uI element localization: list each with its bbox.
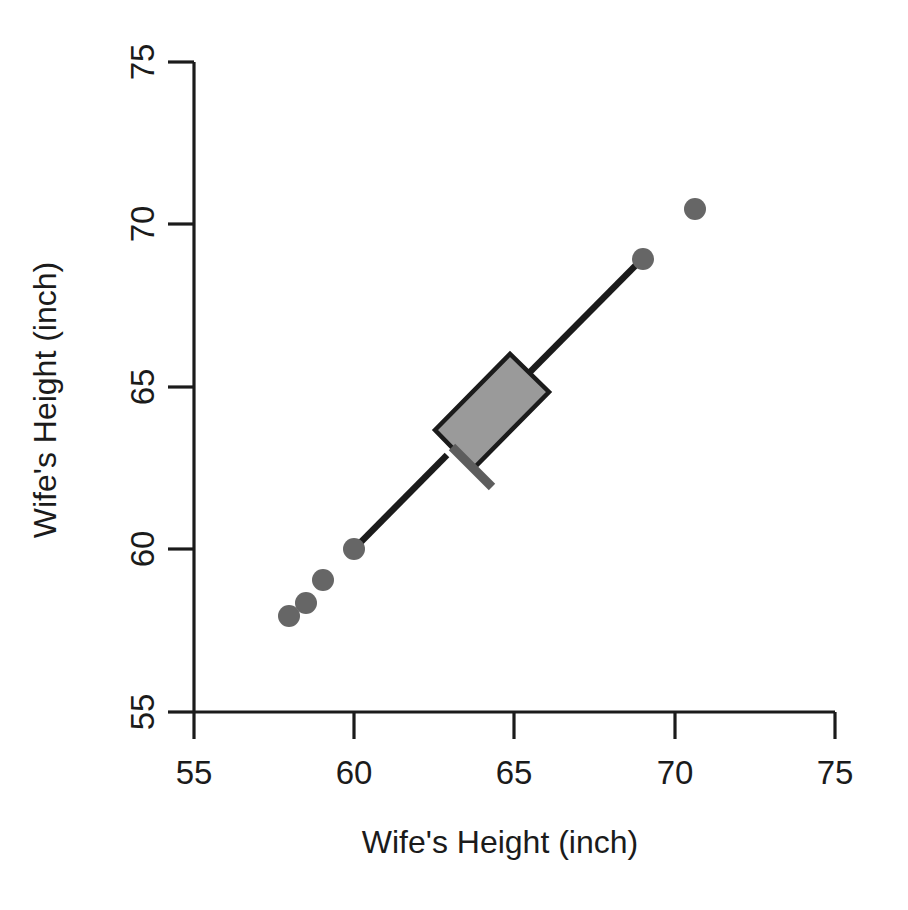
upper-whisker (530, 259, 642, 372)
x-tick-label-70: 70 (657, 754, 694, 791)
data-point (632, 248, 654, 270)
data-point (312, 569, 334, 591)
y-tick-label-65: 65 (124, 369, 161, 406)
x-tick-label-55: 55 (176, 754, 213, 791)
x-tick-label-75: 75 (817, 754, 854, 791)
data-point (343, 538, 365, 560)
x-axis-title: Wife's Height (inch) (362, 824, 638, 860)
y-tick-label-55: 55 (124, 694, 161, 731)
y-axis-title: Wife's Height (inch) (27, 262, 63, 538)
diagonal-boxplot (354, 259, 642, 549)
y-axis: 75 70 65 60 55 Wife's Height (inch) (27, 44, 194, 731)
chart-figure: 75 70 65 60 55 Wife's Height (inch) 55 6… (0, 0, 908, 910)
x-tick-label-60: 60 (336, 754, 373, 791)
lower-whisker (354, 455, 447, 549)
data-point (295, 592, 317, 614)
x-tick-label-65: 65 (496, 754, 533, 791)
y-tick-label-70: 70 (124, 206, 161, 243)
y-tick-label-60: 60 (124, 531, 161, 568)
y-tick-label-75: 75 (124, 44, 161, 81)
x-axis: 55 60 65 70 75 Wife's Height (inch) (176, 712, 854, 860)
data-point (684, 198, 706, 220)
scatter-boxplot-canvas: 75 70 65 60 55 Wife's Height (inch) 55 6… (0, 0, 908, 910)
